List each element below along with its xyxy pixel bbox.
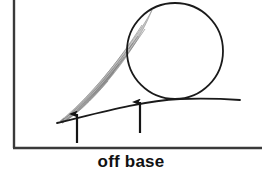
circle-shape (127, 3, 223, 99)
figure-container: off base (0, 0, 262, 174)
wedge-body (60, 10, 152, 123)
striated-wedge-shape (60, 10, 152, 123)
figure-caption: off base (0, 152, 262, 172)
figure-drawing (0, 0, 262, 174)
